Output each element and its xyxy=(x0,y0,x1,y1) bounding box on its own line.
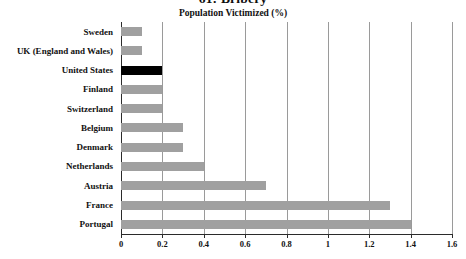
x-axis-ticks: 00.20.40.60.811.21.41.6 xyxy=(121,234,452,254)
bar-uk-england-and-wales xyxy=(121,46,142,55)
bar-row xyxy=(121,99,452,118)
x-tick-label: 0.2 xyxy=(157,239,168,249)
x-tick xyxy=(411,234,412,238)
bar-netherlands xyxy=(121,162,204,171)
category-label-portugal: Portugal xyxy=(0,215,117,234)
bar-austria xyxy=(121,181,266,190)
bar-row xyxy=(121,215,452,234)
plot-area xyxy=(121,22,452,234)
category-label-switzerland: Switzerland xyxy=(0,99,117,118)
bar-row xyxy=(121,157,452,176)
bar-row xyxy=(121,195,452,214)
bar-row xyxy=(121,61,452,80)
chart-title: 61: Bribery xyxy=(0,0,466,5)
category-label-united-states: United States xyxy=(0,61,117,80)
x-tick-label: 0.6 xyxy=(240,239,251,249)
x-tick-label: 1.6 xyxy=(447,239,458,249)
x-tick-label: 0.8 xyxy=(281,239,292,249)
x-tick xyxy=(121,234,122,238)
bar-france xyxy=(121,201,390,210)
bar-portugal xyxy=(121,220,411,229)
bar-row xyxy=(121,80,452,99)
x-tick-label: 0 xyxy=(119,239,123,249)
category-label-austria: Austria xyxy=(0,176,117,195)
category-label-france: France xyxy=(0,195,117,214)
x-tick xyxy=(204,234,205,238)
x-tick xyxy=(452,234,453,238)
chart-title-block: 61: Bribery Population Victimized (%) xyxy=(0,0,466,19)
x-tick-label: 1 xyxy=(326,239,330,249)
bar-denmark xyxy=(121,143,183,152)
bar-series xyxy=(121,22,452,234)
x-tick xyxy=(369,234,370,238)
category-label-denmark: Denmark xyxy=(0,138,117,157)
category-label-sweden: Sweden xyxy=(0,22,117,41)
x-tick xyxy=(287,234,288,238)
x-tick xyxy=(328,234,329,238)
bar-finland xyxy=(121,85,162,94)
bar-sweden xyxy=(121,27,142,36)
category-label-finland: Finland xyxy=(0,80,117,99)
gridline xyxy=(452,22,453,234)
bar-switzerland xyxy=(121,104,162,113)
bar-row xyxy=(121,138,452,157)
category-label-uk-england-and-wales: UK (England and Wales) xyxy=(0,41,117,60)
chart-subtitle: Population Victimized (%) xyxy=(0,8,466,19)
bar-row xyxy=(121,22,452,41)
category-label-belgium: Belgium xyxy=(0,118,117,137)
bar-united-states xyxy=(121,66,162,75)
bar-row xyxy=(121,118,452,137)
bar-row xyxy=(121,176,452,195)
bar-belgium xyxy=(121,123,183,132)
category-label-netherlands: Netherlands xyxy=(0,157,117,176)
x-tick-label: 0.4 xyxy=(198,239,209,249)
x-tick xyxy=(245,234,246,238)
category-axis-labels: SwedenUK (England and Wales)United State… xyxy=(0,22,117,234)
bribery-bar-chart: 61: Bribery Population Victimized (%) Sw… xyxy=(0,0,466,259)
x-tick-label: 1.2 xyxy=(364,239,375,249)
x-tick xyxy=(162,234,163,238)
bar-row xyxy=(121,41,452,60)
x-tick-label: 1.4 xyxy=(405,239,416,249)
